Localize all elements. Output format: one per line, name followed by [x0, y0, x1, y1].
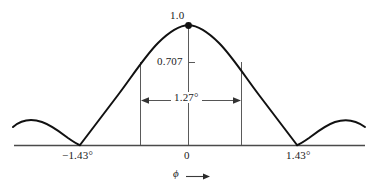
phi-symbol: ϕ — [173, 167, 179, 179]
x-axis-label: ϕ — [173, 168, 179, 179]
half-power-value-label: 0.707 — [157, 56, 183, 67]
beamwidth-label: 1.27° — [171, 92, 202, 103]
null-right-tick-label: 1.43° — [286, 150, 311, 161]
antenna-beam-pattern-figure: 1.0 0.707 1.27° −1.43° 0 1.43° ϕ — [0, 0, 372, 192]
null-left-tick-label: −1.43° — [62, 150, 93, 161]
sidelobe-right-curve — [297, 120, 365, 145]
peak-value-label: 1.0 — [170, 10, 184, 21]
x-axis-direction-arrow — [186, 174, 210, 180]
sidelobe-left-curve — [13, 120, 80, 145]
origin-tick-label: 0 — [184, 150, 190, 161]
peak-marker — [185, 22, 192, 29]
